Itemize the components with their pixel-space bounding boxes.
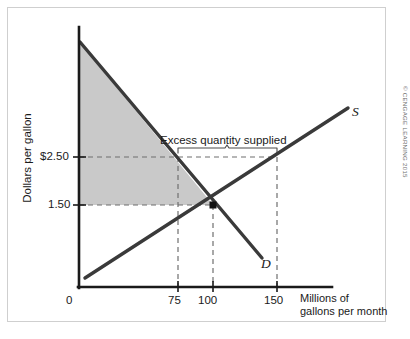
figure-root: Dollars per gallon Millions of gallons p… [0,0,410,339]
copyright-notice: © CENGAGE LEARNING 2015 [402,86,409,196]
x-axis-title-line2: gallons per month [300,305,404,318]
y-tick-label-150: 1.50 [48,198,70,210]
x-tick-label-150: 150 [264,294,283,306]
y-tick-label-250: $2.50 [40,150,69,162]
equilibrium-point-marker [210,202,217,209]
x-tick-label-100: 100 [198,294,217,306]
x-axis-title: Millions of gallons per month [300,292,404,317]
x-axis-title-line1: Millions of [300,292,404,305]
demand-curve-label: D [261,256,271,272]
y-axis-title: Dollars per gallon [21,93,33,223]
supply-curve-label: S [352,104,359,120]
excess-quantity-bracket [178,145,277,153]
x-tick-label-0: 0 [66,294,72,306]
excess-quantity-supplied-label: Excess quantity supplied [160,134,287,146]
supply-demand-chart [0,0,410,339]
x-tick-label-75: 75 [168,294,181,306]
